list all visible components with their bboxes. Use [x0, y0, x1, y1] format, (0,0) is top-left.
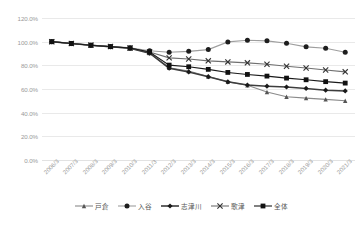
x-axis-tick-label: 2017/3 [258, 158, 275, 175]
legend-marker-circle-icon [118, 202, 136, 210]
chart-legend: 戸倉入谷志津川歌津全体 [0, 201, 362, 211]
x-axis-tick-label: 2006/3 [43, 158, 60, 175]
x-axis-tick-label: 2014/3 [199, 158, 216, 175]
data-point-square [260, 204, 265, 209]
x-axis-labels: 2006/32007/32008/32009/32010/32011/32012… [42, 160, 355, 200]
y-axis-tick-label: 0.0% [24, 157, 38, 164]
legend-item-全体[interactable]: 全体 [254, 201, 288, 211]
data-point-diamond [167, 203, 172, 208]
legend-item-歌津[interactable]: 歌津 [211, 201, 245, 211]
y-axis-tick-label: 40.0% [21, 109, 38, 116]
legend-label: 志津川 [181, 201, 202, 211]
x-axis-tick-label: 2020/3 [316, 158, 333, 175]
x-axis-tick-label: 2012/3 [160, 158, 177, 175]
plot-area [42, 18, 355, 160]
x-axis-tick-label: 2016/3 [238, 158, 255, 175]
legend-item-戸倉[interactable]: 戸倉 [75, 201, 109, 211]
gridline [42, 65, 355, 66]
legend-label: 全体 [274, 201, 288, 211]
x-axis-tick-label: 2019/3 [297, 158, 314, 175]
legend-marker-triangle-icon [75, 202, 93, 210]
y-axis-tick-label: 20.0% [21, 133, 38, 140]
data-point-circle [124, 204, 129, 209]
legend-label: 入谷 [138, 201, 152, 211]
legend-item-入谷[interactable]: 入谷 [118, 201, 152, 211]
legend-label: 戸倉 [95, 201, 109, 211]
y-axis-tick-label: 80.0% [21, 62, 38, 69]
legend-label: 歌津 [231, 201, 245, 211]
gridline [42, 42, 355, 43]
chart-container: 120.0%100.0%80.0%60.0%40.0%20.0%0.0% 200… [0, 0, 362, 228]
y-axis-tick-label: 120.0% [18, 15, 38, 22]
legend-marker-square-icon [254, 202, 272, 210]
legend-item-志津川[interactable]: 志津川 [161, 201, 202, 211]
gridline [42, 18, 355, 19]
x-axis-tick-label: 2009/3 [101, 158, 118, 175]
y-axis-tick-label: 60.0% [21, 86, 38, 93]
x-axis-tick-label: 2013/3 [180, 158, 197, 175]
x-axis-tick-label: 2021/3 [336, 158, 353, 175]
x-axis-tick-label: 2008/3 [82, 158, 99, 175]
gridline [42, 136, 355, 137]
legend-marker-diamond-icon [161, 202, 179, 210]
x-axis-tick-label: 2011/3 [140, 159, 157, 176]
x-axis-tick-label: 2010/3 [121, 158, 138, 175]
x-axis-tick-label: 2018/3 [277, 158, 294, 175]
x-axis-tick-label: 2015/3 [219, 158, 236, 175]
y-axis-tick-label: 100.0% [18, 38, 38, 45]
y-axis-labels: 120.0%100.0%80.0%60.0%40.0%20.0%0.0% [0, 18, 38, 160]
gridline [42, 89, 355, 90]
x-axis-tick-label: 2007/3 [62, 158, 79, 175]
gridline [42, 113, 355, 114]
legend-marker-x-icon [211, 202, 229, 210]
